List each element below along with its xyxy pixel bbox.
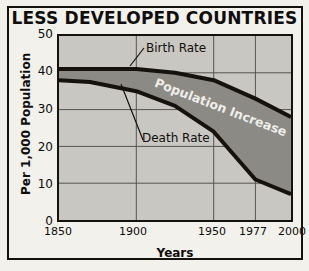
chart-title: LESS DEVELOPED COUNTRIES [0, 8, 309, 28]
y-tick-10: 10 [27, 177, 53, 191]
birth-rate-annotation: Birth Rate [146, 41, 206, 55]
chart-figure: LESS DEVELOPED COUNTRIES Per 1,000 Popul… [0, 0, 309, 271]
y-tick-30: 30 [27, 102, 53, 116]
birth-rate-leader-line [130, 48, 144, 66]
y-tick-40: 40 [27, 64, 53, 78]
death-rate-annotation: Death Rate [142, 131, 210, 145]
x-tick-2000: 2000 [272, 225, 309, 238]
y-tick-50: 50 [27, 27, 53, 41]
x-tick-1950: 1950 [192, 225, 232, 238]
x-tick-1900: 1900 [113, 225, 153, 238]
x-tick-1850: 1850 [38, 225, 78, 238]
y-tick-20: 20 [27, 140, 53, 154]
x-axis-label: Years [57, 246, 293, 260]
x-tick-1977: 1977 [233, 225, 273, 238]
